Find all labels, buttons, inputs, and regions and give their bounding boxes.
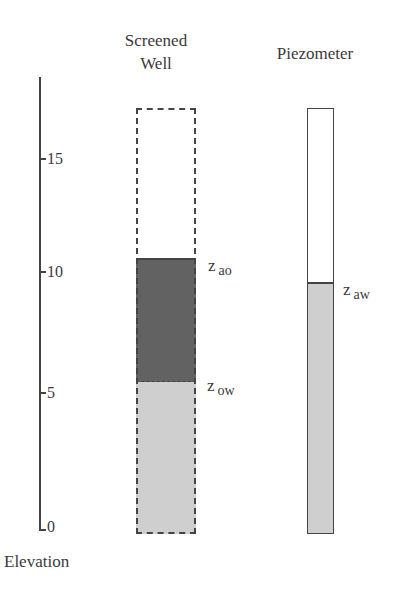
piezometer-header: Piezometer (256, 44, 374, 64)
screened-well-dashed-outline (136, 108, 196, 534)
axis-tick-label-0: 0 (47, 519, 55, 535)
axis-tick-5 (40, 392, 46, 394)
axis-tick-15 (40, 158, 46, 160)
screened-well-column (136, 108, 196, 534)
z-aw-symbol: z (343, 280, 351, 299)
piezometer-outline (307, 108, 334, 534)
piezometer-column (307, 108, 334, 534)
z-ow-subscript: ow (218, 383, 235, 398)
screened-well-header-line2: Well (100, 54, 212, 74)
z-aw-label: zaw (343, 280, 370, 300)
z-ao-symbol: z (208, 256, 216, 275)
z-ao-label: zao (208, 256, 232, 276)
axis-tick-0 (40, 529, 46, 531)
z-aw-subscript: aw (354, 287, 370, 302)
screened-well-header-line1: Screened (100, 31, 212, 51)
screened-well-header: Screened Well (100, 31, 212, 74)
axis-tick-label-5: 5 (47, 385, 55, 401)
axis-tick-10 (40, 271, 46, 273)
axis-tick-label-10: 10 (47, 264, 63, 280)
axis-tick-label-15: 15 (47, 151, 63, 167)
z-ow-label: zow (207, 376, 235, 396)
z-ao-subscript: ao (219, 263, 232, 278)
elevation-axis-line (39, 77, 41, 531)
z-ow-symbol: z (207, 376, 215, 395)
elevation-axis-label: Elevation (4, 552, 69, 572)
